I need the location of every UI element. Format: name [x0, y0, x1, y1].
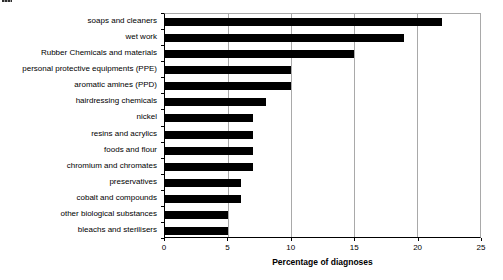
bar — [165, 163, 253, 171]
category-label: nickel — [0, 113, 160, 121]
y-axis-tick — [161, 190, 164, 191]
bar — [165, 98, 266, 106]
bar — [165, 179, 241, 187]
y-axis-tick — [161, 29, 164, 30]
bar — [165, 34, 404, 42]
y-axis-tick — [161, 126, 164, 127]
bar-row — [165, 207, 480, 223]
category-label: bleachs and sterilisers — [0, 226, 160, 234]
x-tick-label: 0 — [162, 243, 166, 252]
x-tick-label: 25 — [477, 243, 486, 252]
bar — [165, 50, 354, 58]
category-label: cobalt and compounds — [0, 194, 160, 202]
y-axis-tick — [161, 174, 164, 175]
y-axis-tick — [161, 93, 164, 94]
y-axis-tick — [161, 238, 164, 239]
bar-row — [165, 110, 480, 126]
category-label: chromium and chromates — [0, 162, 160, 170]
bar — [165, 66, 291, 74]
category-label: other biological substances — [0, 210, 160, 218]
y-axis-tick — [161, 158, 164, 159]
bar — [165, 114, 253, 122]
bar-row — [165, 159, 480, 175]
category-label: foods and flour — [0, 146, 160, 154]
category-label: resins and acrylics — [0, 130, 160, 138]
x-axis-tick — [418, 238, 419, 241]
bar — [165, 195, 241, 203]
category-label: wet work — [0, 33, 160, 41]
y-axis-tick — [161, 222, 164, 223]
bar-row — [165, 175, 480, 191]
category-label: aromatic amines (PPD) — [0, 81, 160, 89]
bar-row — [165, 62, 480, 78]
bar-row — [165, 94, 480, 110]
bar — [165, 147, 253, 155]
bar-chart: soaps and cleanerswet workRubber Chemica… — [0, 0, 503, 280]
bar — [165, 18, 442, 26]
category-label: personal protective equipments (PPE) — [0, 65, 160, 73]
y-axis-tick — [161, 45, 164, 46]
category-label: Rubber Chemicals and materials — [0, 49, 160, 57]
y-axis-tick — [161, 109, 164, 110]
bar — [165, 82, 291, 90]
y-axis-tick — [161, 77, 164, 78]
bar — [165, 131, 253, 139]
y-axis-tick — [161, 142, 164, 143]
category-label: preservatives — [0, 178, 160, 186]
category-label: soaps and cleaners — [0, 17, 160, 25]
x-axis-tick — [291, 238, 292, 241]
x-tick-label: 15 — [350, 243, 359, 252]
bar-row — [165, 143, 480, 159]
bar-row — [165, 223, 480, 239]
x-tick-label: 5 — [225, 243, 229, 252]
crop-artifact — [2, 0, 12, 2]
x-tick-label: 10 — [286, 243, 295, 252]
x-axis-title: Percentage of diagnoses — [164, 257, 481, 267]
x-axis-tick — [481, 238, 482, 241]
bar-row — [165, 191, 480, 207]
y-axis-tick — [161, 13, 164, 14]
category-axis-labels: soaps and cleanerswet workRubber Chemica… — [0, 13, 160, 238]
bar-row — [165, 78, 480, 94]
bar — [165, 227, 228, 235]
bar — [165, 211, 228, 219]
bar-row — [165, 127, 480, 143]
category-label: hairdressing chemicals — [0, 97, 160, 105]
bar-row — [165, 46, 480, 62]
x-axis-tick — [227, 238, 228, 241]
bar-row — [165, 30, 480, 46]
y-axis-tick — [161, 61, 164, 62]
y-axis-tick — [161, 206, 164, 207]
bar-row — [165, 14, 480, 30]
x-axis-tick — [164, 238, 165, 241]
plot-area — [164, 13, 481, 238]
x-axis-tick — [354, 238, 355, 241]
x-tick-label: 20 — [413, 243, 422, 252]
